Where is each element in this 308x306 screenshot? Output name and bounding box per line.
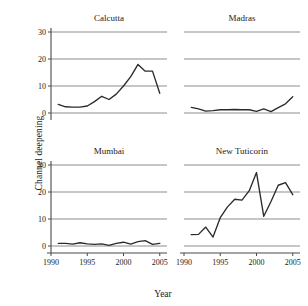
x-tick-label: 1990 <box>176 258 192 267</box>
y-tick-label: 0 <box>42 242 46 251</box>
x-axis-label: Year <box>0 289 308 299</box>
y-axis-label: Channel deepening <box>34 116 44 191</box>
x-tick-label: 1995 <box>212 258 228 267</box>
x-tick-label: 2005 <box>152 258 168 267</box>
x-tick-label: 1995 <box>79 258 95 267</box>
y-tick-label: 20 <box>38 55 46 64</box>
panel-madras: Madras <box>184 13 300 113</box>
panel-calcutta: 0102030Calcutta <box>38 13 167 120</box>
y-tick-label: 30 <box>38 28 46 37</box>
x-tick-label: 1990 <box>43 258 59 267</box>
x-tick-label: 2005 <box>285 258 301 267</box>
panel-mumbai: 01020301990199520002005Mumbai <box>38 146 168 267</box>
y-tick-label: 10 <box>38 215 46 224</box>
series-line-new-tuticorin <box>191 173 293 238</box>
series-line-mumbai <box>58 241 160 246</box>
panel-new-tuticorin: 1990199520002005New Tuticorin <box>176 146 301 267</box>
chart-canvas: 0102030CalcuttaMadras0102030199019952000… <box>0 0 308 306</box>
panel-title: Madras <box>229 13 256 23</box>
x-tick-label: 2000 <box>116 258 132 267</box>
panel-title: Calcutta <box>94 13 124 23</box>
panel-title: Mumbai <box>94 146 125 156</box>
x-tick-label: 2000 <box>249 258 265 267</box>
chart-figure: Channel deepening Year 0102030CalcuttaMa… <box>0 0 308 306</box>
panel-title: New Tuticorin <box>216 146 269 156</box>
y-tick-label: 10 <box>38 82 46 91</box>
series-line-madras <box>191 97 293 112</box>
